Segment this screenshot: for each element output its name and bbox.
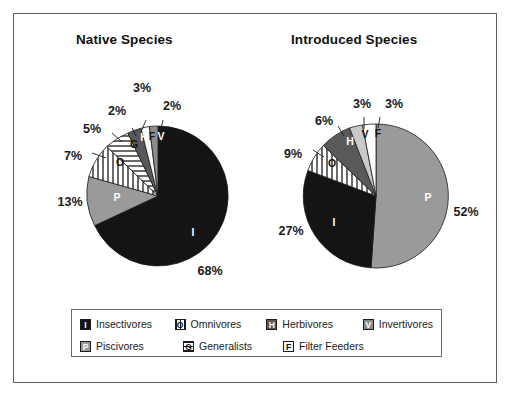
legend-swatch-letter-O: O [176,319,185,330]
legend-item-insectivores: I Insectivores [80,315,175,333]
legend: I Insectivores O Omnivores H Herbivores … [71,309,442,357]
pie-native-key-V: V [157,130,164,142]
pie-native-key-F: F [149,130,156,142]
pie-introduced-pct-herbivores: 6% [315,114,333,128]
legend-swatch-omnivores: O [175,319,186,330]
pie-introduced-pct-piscivores: 52% [453,205,478,219]
pie-introduced-key-O: O [328,157,336,169]
pie-native-pct-piscivores: 13% [57,195,82,209]
legend-label-herbivores: Herbivores [282,318,333,330]
pie-chart-native: I P O G H F V 3% 2% 2% 5% 7% 13% 68% [62,70,257,285]
pie-introduced-pct-insectivores: 27% [278,224,303,238]
legend-row-1: I Insectivores O Omnivores H Herbivores … [80,315,433,333]
legend-item-generalists: G Generalists [183,337,283,355]
pie-native-key-I: I [192,226,195,238]
pie-introduced-pct-omnivores: 9% [284,147,302,161]
legend-swatch-invertivores: V [363,319,374,330]
pie-native-pct-herbivores: 3% [133,81,151,95]
legend-label-insectivores: Insectivores [96,318,152,330]
legend-item-herbivores: H Herbivores [266,315,362,333]
pie-native-pct-insectivores: 68% [197,264,222,278]
legend-swatch-letter-H: H [267,319,276,330]
legend-swatch-piscivores: P [80,341,91,352]
pie-introduced-pct-invertivores: 3% [353,97,371,111]
pie-introduced-slice-piscivores [371,124,448,268]
pie-native-pct-filter-feeders: 2% [163,99,181,113]
pie-native-pct-invertivores: 2% [108,104,126,118]
figure-frame: Native Species Introduced Species [13,13,497,383]
pie-introduced-key-P: P [424,191,431,203]
legend-label-filter-feeders: Filter Feeders [299,340,364,352]
pie-introduced-svg: P I O H V F 3% 3% 6% 9% 27% 52% [276,70,481,285]
legend-label-invertivores: Invertivores [379,318,433,330]
legend-swatch-letter-F: F [284,341,293,352]
legend-swatch-filter-feeders: F [283,341,294,352]
legend-label-piscivores: Piscivores [96,340,144,352]
legend-swatch-letter-G: G [184,341,193,352]
pie-chart-introduced: P I O H V F 3% 3% 6% 9% 27% 52% [276,70,481,285]
pie-native-key-H: H [140,131,148,143]
pie-native-key-P: P [113,191,120,203]
legend-swatch-letter-P: P [81,341,90,352]
pie-native-key-G: G [130,138,138,150]
legend-swatch-generalists: G [183,341,194,352]
pie-introduced-key-H: H [346,135,354,147]
legend-label-omnivores: Omnivores [191,318,242,330]
pie-introduced-key-F: F [375,127,382,139]
pie-native-svg: I P O G H F V 3% 2% 2% 5% 7% 13% 68% [62,70,257,285]
pie-native-pct-omnivores: 7% [64,149,82,163]
chart-title-introduced: Introduced Species [291,32,417,47]
pie-introduced-pct-filter-feeders: 3% [385,97,403,111]
legend-swatch-insectivores: I [80,319,91,330]
chart-title-native: Native Species [76,32,173,47]
legend-item-invertivores: V Invertivores [363,315,433,333]
legend-item-omnivores: O Omnivores [175,315,267,333]
pie-introduced-key-I: I [333,216,336,228]
pie-introduced-key-V: V [361,128,368,140]
legend-item-piscivores: P Piscivores [80,337,183,355]
legend-swatch-letter-I: I [81,319,90,330]
pie-native-pct-generalists: 5% [83,122,101,136]
legend-label-generalists: Generalists [199,340,252,352]
legend-swatch-letter-V: V [364,319,373,330]
legend-item-filter-feeders: F Filter Feeders [283,337,388,355]
legend-row-2: P Piscivores G Generalists F Filter Feed… [80,337,433,355]
legend-swatch-herbivores: H [266,319,277,330]
pie-native-key-O: O [116,156,124,168]
